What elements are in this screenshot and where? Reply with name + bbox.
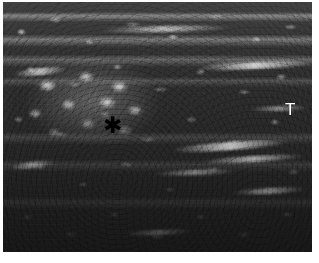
ultrasound-figure: ✱ T (0, 0, 319, 263)
asterisk-marker: ✱ (103, 114, 120, 134)
ultrasound-image-panel: ✱ T (3, 2, 312, 252)
depth-attenuation-layer (3, 2, 312, 252)
t-marker: T (285, 101, 295, 118)
